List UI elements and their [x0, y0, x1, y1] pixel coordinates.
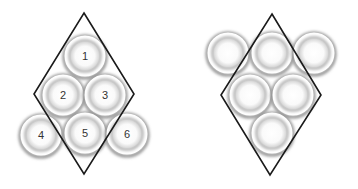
circle-1-3 [229, 75, 271, 117]
circle-1-0 [207, 33, 249, 75]
circle-number-label: 6 [124, 128, 130, 140]
circle-number-label: 5 [82, 127, 88, 139]
circle-number-label: 2 [60, 89, 66, 101]
circle-layer [20, 33, 335, 157]
unnumbered-packing [207, 33, 335, 155]
circle-number-label: 1 [82, 50, 88, 62]
circle-1-2 [293, 33, 335, 75]
circle-1-4 [272, 75, 314, 117]
packing-diagram: 123456 [0, 0, 358, 189]
circle-number-label: 3 [102, 89, 108, 101]
circle-number-label: 4 [38, 129, 44, 141]
